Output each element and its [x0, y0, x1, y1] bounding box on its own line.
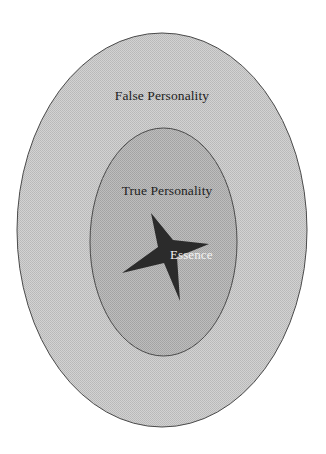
- true-personality-label: True Personality: [118, 183, 216, 199]
- personality-diagram: [0, 0, 326, 454]
- false-personality-label: False Personality: [113, 88, 211, 104]
- essence-label: Essence: [170, 247, 213, 263]
